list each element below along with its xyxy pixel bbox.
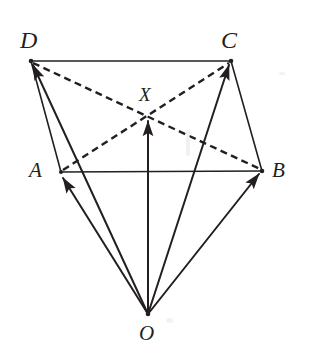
vertex-label-a: A xyxy=(29,160,42,181)
vertex-dot-D xyxy=(29,59,34,64)
geometry-figure: D C X A B O xyxy=(0,0,315,359)
edge-CB xyxy=(231,61,262,171)
vector-OA xyxy=(63,178,148,314)
dashed-diagonals xyxy=(33,63,260,170)
vertex-dot-A xyxy=(59,170,63,174)
vector-OD xyxy=(33,65,148,314)
vertex-label-b: B xyxy=(272,160,285,181)
vertex-dot-C xyxy=(229,59,234,64)
vertex-dot-O xyxy=(146,312,151,317)
diagram-canvas xyxy=(0,0,315,359)
diagonal-AC xyxy=(63,63,229,170)
vertex-label-c: C xyxy=(221,28,237,52)
edge-AB xyxy=(61,171,262,172)
vector-OB xyxy=(148,174,259,314)
vertex-label-x: X xyxy=(139,85,151,104)
vector-OC xyxy=(148,65,229,314)
diagonal-DB xyxy=(33,63,260,169)
vertex-label-d: D xyxy=(20,28,37,52)
vertex-dot-B xyxy=(260,169,265,174)
vertex-label-o: O xyxy=(139,323,154,344)
